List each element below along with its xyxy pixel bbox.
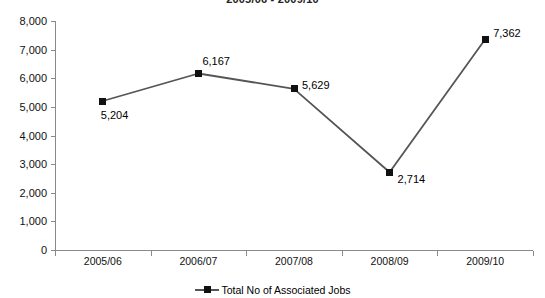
data-point-marker (99, 98, 106, 105)
series-polyline (103, 39, 485, 172)
data-point-label: 2,714 (398, 174, 426, 185)
legend-item-total-no-of-associated-jobs: Total No of Associated Jobs (195, 284, 351, 296)
data-point-marker (482, 36, 489, 43)
data-point-label: 5,204 (101, 110, 129, 121)
data-point-marker (291, 85, 298, 92)
legend-marker-icon (195, 289, 219, 291)
chart-legend: Total No of Associated Jobs (0, 281, 545, 296)
data-point-marker (386, 169, 393, 176)
legend-item-label: Total No of Associated Jobs (222, 284, 351, 296)
data-point-label: 6,167 (202, 56, 230, 67)
series-line-total-no-of-associated-jobs (0, 0, 545, 298)
data-point-label: 5,629 (302, 80, 330, 91)
data-point-marker (195, 70, 202, 77)
line-chart: 2005/06 - 2009/10 01,0002,0003,0004,0005… (0, 0, 545, 298)
data-point-label: 7,362 (493, 28, 521, 39)
